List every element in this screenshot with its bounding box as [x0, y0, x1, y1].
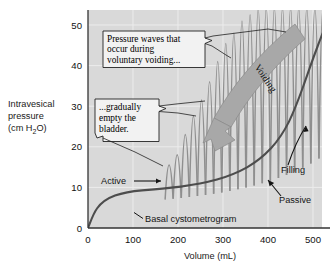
y-tick-labels: 0 10 20 30 40 50 [71, 20, 82, 234]
callout-empty-line1: ...gradually [99, 102, 141, 112]
y-axis-unit-post: O) [36, 123, 46, 133]
x-axis-title: Volume (mL) [184, 251, 236, 261]
x-tick-500: 500 [305, 234, 321, 245]
y-tick-0: 0 [77, 223, 82, 234]
y-tick-20: 20 [71, 141, 82, 152]
x-tick-0: 0 [85, 234, 90, 245]
y-tick-40: 40 [71, 60, 82, 71]
x-tick-100: 100 [125, 234, 141, 245]
x-tick-300: 300 [215, 234, 231, 245]
basal-annotation: Basal cystometrogram [134, 213, 237, 225]
active-label: Active [101, 176, 126, 186]
cystometrogram-figure: Voiding Pressure waves that occur during… [0, 0, 335, 277]
x-tick-labels: 0 100 200 300 400 500 [85, 234, 321, 245]
callout-waves-line3: voluntary voiding... [107, 55, 180, 65]
y-tick-10: 10 [71, 182, 82, 193]
callout-waves-line2: occur during [107, 44, 155, 54]
x-tick-200: 200 [170, 234, 186, 245]
basal-label: Basal cystometrogram [145, 214, 237, 224]
y-tick-30: 30 [71, 101, 82, 112]
y-axis-title-line1: Intravesical [8, 99, 54, 109]
y-axis-title: Intravesical pressure (cm H2O) [8, 99, 54, 135]
callout-waves-line1: Pressure waves that [107, 34, 181, 44]
x-tick-400: 400 [260, 234, 276, 245]
callout-empty-line2: empty the [99, 113, 136, 123]
y-axis-title-line2: pressure [8, 111, 44, 121]
y-tick-50: 50 [71, 20, 82, 31]
filling-label: Filling [281, 165, 305, 175]
y-axis-unit-pre: (cm H [8, 123, 33, 133]
y-axis-title-line3: (cm H2O) [8, 123, 47, 135]
callout-empty-line3: bladder. [99, 124, 129, 134]
passive-label: Passive [279, 195, 311, 205]
